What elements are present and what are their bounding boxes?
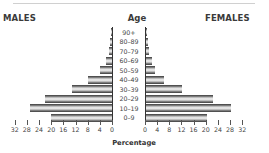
male-bar <box>110 38 112 46</box>
males-header: MALES <box>3 13 36 23</box>
x-tick <box>230 120 231 125</box>
x-tick <box>63 120 64 125</box>
age-group-label: 30–39 <box>113 85 145 94</box>
male-bar <box>109 47 112 55</box>
age-group-label: 40–49 <box>113 75 145 84</box>
female-bar <box>146 38 148 46</box>
x-tick-label: 16 <box>187 126 201 133</box>
female-bar <box>146 66 155 74</box>
x-tick <box>15 120 16 125</box>
top-divider <box>13 3 255 4</box>
x-tick <box>100 120 101 125</box>
age-header: Age <box>115 13 159 23</box>
age-group-label: 90+ <box>113 28 145 37</box>
x-tick <box>145 120 146 125</box>
male-bar <box>100 66 112 74</box>
female-bar <box>146 57 152 65</box>
male-bar <box>30 104 112 112</box>
male-bar <box>106 57 112 65</box>
x-tick-label: 12 <box>174 126 188 133</box>
age-group-label: 0–9 <box>113 113 145 122</box>
females-header: FEMALES <box>205 13 250 23</box>
age-group-label: 60–69 <box>113 56 145 65</box>
x-tick-label: 8 <box>162 126 176 133</box>
x-tick <box>88 120 89 125</box>
x-tick <box>206 120 207 125</box>
male-bar <box>88 76 112 84</box>
x-tick-label: 32 <box>235 126 249 133</box>
female-bar <box>146 47 149 55</box>
female-bar <box>146 76 164 84</box>
female-bar <box>146 95 213 103</box>
x-tick <box>51 120 52 125</box>
female-bar <box>146 28 147 36</box>
x-tick <box>169 120 170 125</box>
male-bar <box>51 114 112 122</box>
x-tick <box>157 120 158 125</box>
x-tick <box>39 120 40 125</box>
x-tick-label: 0 <box>105 126 119 133</box>
x-tick-label: 28 <box>223 126 237 133</box>
x-tick-label: 20 <box>199 126 213 133</box>
male-bar <box>45 95 112 103</box>
x-tick <box>242 120 243 125</box>
x-tick-label: 24 <box>211 126 225 133</box>
age-group-label: 20–29 <box>113 94 145 103</box>
female-bar <box>146 114 207 122</box>
x-tick <box>27 120 28 125</box>
x-tick <box>218 120 219 125</box>
x-axis-label: Percentage <box>108 139 160 147</box>
female-bar <box>146 104 231 112</box>
female-bar <box>146 85 182 93</box>
x-tick <box>181 120 182 125</box>
x-tick <box>112 120 113 125</box>
x-tick <box>76 120 77 125</box>
x-tick-label: 4 <box>150 126 164 133</box>
age-group-label: 70–79 <box>113 47 145 56</box>
male-bar <box>111 28 112 36</box>
x-tick <box>194 120 195 125</box>
male-bar <box>72 85 112 93</box>
age-group-label: 80–89 <box>113 37 145 46</box>
x-tick-label: 0 <box>138 126 152 133</box>
age-group-label: 10–19 <box>113 104 145 113</box>
age-group-label: 50–59 <box>113 66 145 75</box>
